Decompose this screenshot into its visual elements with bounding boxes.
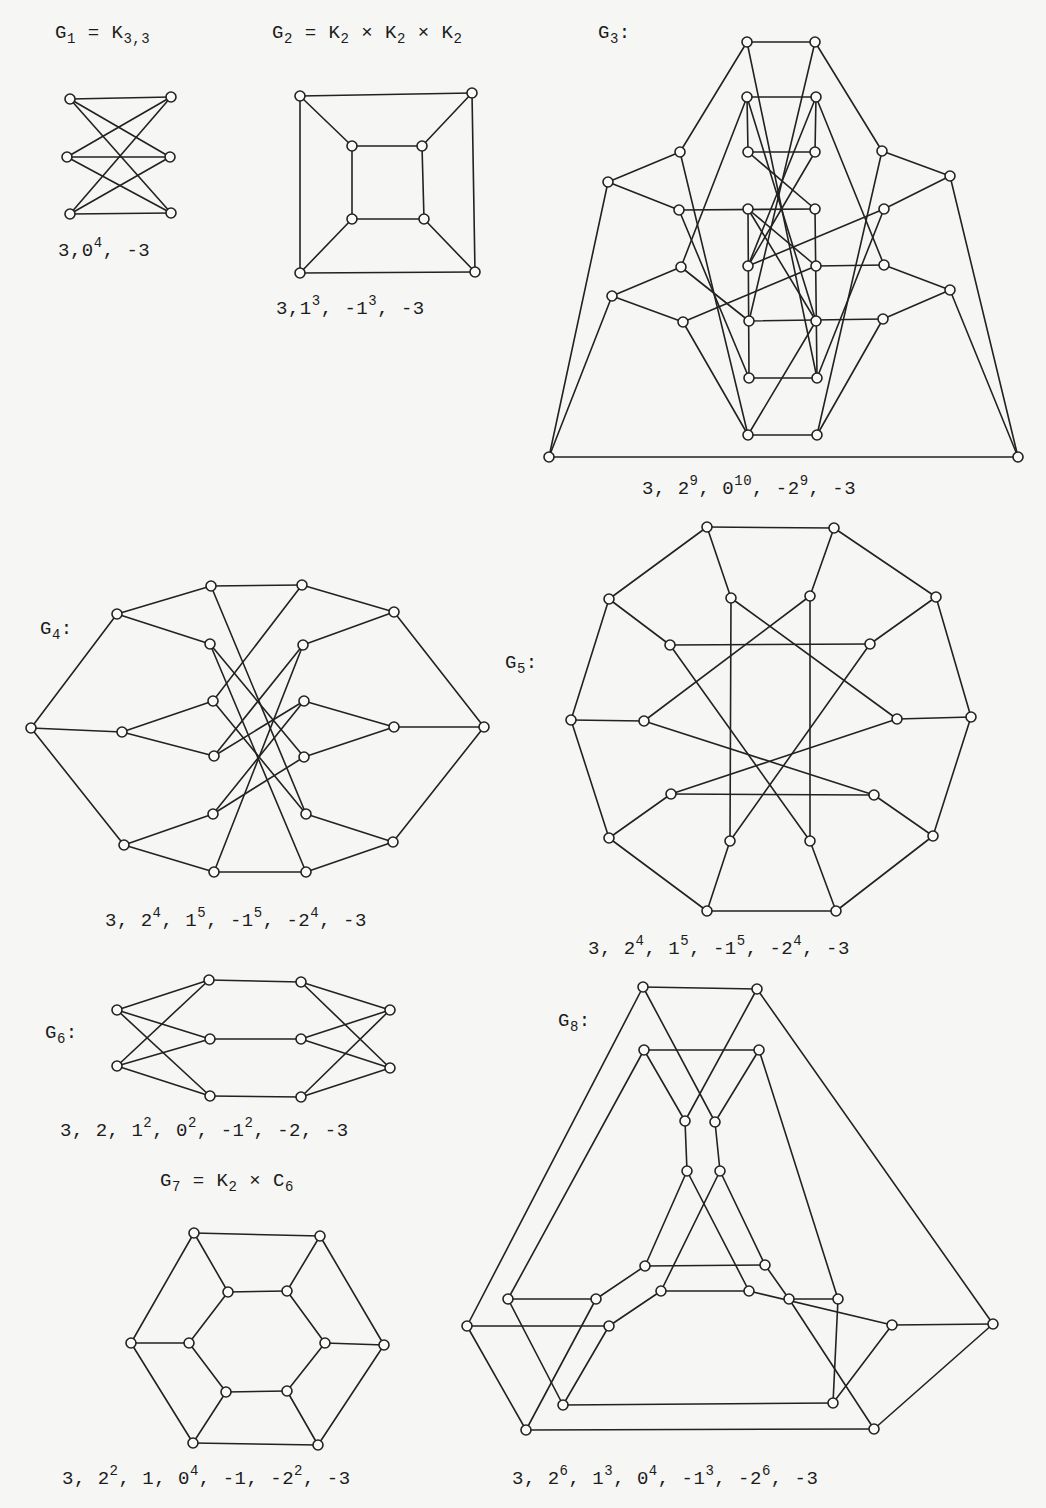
graph-vertex: [591, 1294, 601, 1304]
graph-vertex: [184, 1338, 194, 1348]
graph-title-g2: G2 = K2 × K2 × K2: [272, 22, 462, 47]
graph-vertex: [931, 592, 941, 602]
graph-vertex: [682, 1166, 692, 1176]
eigenvalue: , -1: [658, 1468, 706, 1490]
graph-edge: [892, 1324, 993, 1325]
graph-vertex: [945, 171, 955, 181]
graph-edge: [304, 701, 394, 727]
graph-edge: [731, 598, 897, 719]
title-subscript: 2: [397, 31, 406, 47]
graph-vertex: [604, 833, 614, 843]
graph-edge: [748, 209, 816, 266]
title-subscript: 2: [453, 31, 462, 47]
eigenvalue: , -1: [197, 1120, 245, 1142]
graph-vertex: [725, 836, 735, 846]
graph-title-g7: G7 = K2 × C6: [160, 1170, 294, 1195]
graph-edge: [687, 1171, 749, 1291]
graph-edge: [897, 717, 971, 719]
graph-g2: [295, 88, 480, 278]
graph-vertex: [680, 1116, 690, 1126]
graph-vertex: [877, 146, 887, 156]
eigenvalue: , -2: [746, 938, 794, 960]
multiplicity: 4: [94, 235, 103, 251]
graph-edge: [836, 836, 933, 911]
graph-edge: [730, 598, 731, 841]
graph-edge: [124, 814, 213, 845]
graph-edge: [817, 209, 884, 378]
graph-edge: [608, 182, 679, 210]
title-subscript: 1: [67, 31, 76, 47]
graph-edge: [680, 42, 747, 152]
multiplicity: 4: [649, 1463, 658, 1479]
graph-edge: [300, 219, 352, 273]
title-text: :: [66, 1022, 78, 1044]
title-subscript: 8: [570, 1019, 579, 1035]
multiplicity: 10: [734, 473, 752, 489]
eigenvalue: , -1: [206, 910, 254, 932]
graph-edge: [833, 1299, 838, 1403]
graph-vertex: [966, 712, 976, 722]
graph-edge: [661, 1171, 720, 1291]
graph-edge: [124, 845, 214, 872]
graph-edge: [194, 1233, 320, 1236]
multiplicity: 9: [800, 473, 809, 489]
graph-vertex: [784, 1294, 794, 1304]
multiplicity: 2: [188, 1115, 197, 1131]
graph-edge: [747, 97, 748, 152]
graph-edge: [226, 1391, 287, 1392]
graph-vertex: [810, 204, 820, 214]
graph-vertex: [388, 837, 398, 847]
eigenvalue: 3,1: [276, 298, 312, 320]
graph-vertex: [833, 1294, 843, 1304]
graph-vertex: [544, 452, 554, 462]
graph-edge: [685, 989, 757, 1121]
graph-edge: [884, 176, 950, 209]
eigenvalue: , 1: [162, 910, 198, 932]
title-subscript: 3,3: [123, 31, 150, 47]
graph-edge: [870, 597, 936, 644]
title-symbol: G: [272, 22, 284, 44]
graph-vertex: [282, 1286, 292, 1296]
title-text: × K: [349, 22, 397, 44]
graph-vertex: [656, 1286, 666, 1296]
graph-edge: [608, 152, 680, 182]
graph-vertex: [744, 373, 754, 383]
multiplicity: 5: [254, 905, 263, 921]
graph-edge: [816, 97, 884, 265]
multiplicity: 4: [153, 905, 162, 921]
eigenvalue: , -3: [377, 298, 425, 320]
graph-edge: [422, 146, 424, 219]
graph-vertex: [928, 831, 938, 841]
graph-vertex: [988, 1319, 998, 1329]
eigenvalue: 3, 2: [642, 478, 690, 500]
graph-edge: [306, 842, 393, 872]
graph-g6: [112, 975, 395, 1102]
eigenvalue: , -1: [321, 298, 369, 320]
graph-edge: [210, 1096, 301, 1097]
graph-edge: [287, 1343, 325, 1391]
graph-vertex: [945, 285, 955, 295]
graph-vertex: [678, 317, 688, 327]
graph-edge: [612, 296, 683, 322]
graph-edge: [833, 1325, 892, 1403]
graph-vertex: [112, 609, 122, 619]
graph-vertex: [298, 640, 308, 650]
eigenvalue: , -3: [771, 1468, 819, 1490]
title-text: :: [579, 1010, 591, 1032]
multiplicity: 4: [190, 1463, 199, 1479]
graph-edge: [70, 99, 170, 157]
multiplicity: 6: [560, 1463, 569, 1479]
graph-vertex: [117, 727, 127, 737]
graph-edge: [609, 794, 671, 838]
spectrum-g2: 3,13, -13, -3: [276, 298, 425, 320]
graph-edge: [526, 1429, 874, 1430]
graph-edge: [815, 97, 816, 152]
title-symbol: G: [45, 1022, 57, 1044]
graph-vertex: [166, 208, 176, 218]
graph-vertex: [812, 373, 822, 383]
graph-edge: [748, 152, 815, 209]
graph-vertex: [119, 840, 129, 850]
graph-vertex: [607, 291, 617, 301]
graph-edge: [936, 597, 971, 717]
graph-edge: [810, 841, 836, 911]
